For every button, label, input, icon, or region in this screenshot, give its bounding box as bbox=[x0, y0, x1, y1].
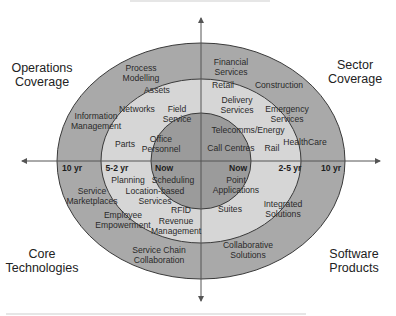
tick-right-2-5yr: 2-5 yr bbox=[279, 163, 302, 173]
tick-left-now: Now bbox=[155, 163, 173, 173]
item-telecomms-energy: Telecomms/Energy bbox=[211, 125, 284, 135]
quadrant-title-sector-coverage: SectorCoverage bbox=[328, 58, 382, 86]
item-assets: Assets bbox=[144, 85, 170, 95]
item-rail: Rail bbox=[265, 143, 280, 153]
quadrant-title-core-technologies: CoreTechnologies bbox=[6, 247, 79, 275]
item-healthcare: HealthCare bbox=[283, 137, 326, 147]
item-information-management: InformationManagement bbox=[71, 111, 121, 131]
item-collaborative-solutions: CollaborativeSolutions bbox=[223, 240, 273, 260]
tick-left-10yr: 10 yr bbox=[62, 163, 82, 173]
item-field-service: FieldService bbox=[163, 104, 192, 124]
item-emergency-services: EmergencyServices bbox=[265, 104, 308, 124]
item-process-modelling: ProcessModelling bbox=[123, 63, 160, 83]
item-point-applications: PointApplications bbox=[213, 175, 259, 195]
item-parts: Parts bbox=[115, 139, 135, 149]
tick-right-now: Now bbox=[229, 163, 247, 173]
item-location-based-services: Location-basedServices bbox=[126, 186, 185, 206]
item-rfid: RFID bbox=[171, 205, 191, 215]
item-service-marketplaces: ServiceMarketplaces bbox=[66, 186, 117, 206]
item-delivery-services: DeliveryServices bbox=[221, 95, 254, 115]
quadrant-title-operations-coverage: OperationsCoverage bbox=[11, 61, 72, 89]
item-integrated-solutions: IntegratedSolutions bbox=[264, 199, 303, 219]
item-call-centres: Call Centres bbox=[207, 143, 254, 153]
item-service-chain-collaboration: Service ChainCollaboration bbox=[132, 245, 186, 265]
tick-right-10yr: 10 yr bbox=[321, 163, 341, 173]
item-networks: Networks bbox=[119, 104, 155, 114]
item-construction: Construction bbox=[255, 80, 303, 90]
item-revenue-management: RevenueManagement bbox=[151, 216, 201, 236]
bottom-cutoff-text bbox=[6, 313, 306, 315]
item-employee-empowerment: EmployeeEmpowerment bbox=[95, 210, 150, 230]
tick-left-5-2yr: 5-2 yr bbox=[106, 163, 129, 173]
top-cutoff-text bbox=[130, 0, 270, 2]
item-retail: Retail bbox=[212, 80, 234, 90]
item-scheduling: Scheduling bbox=[152, 175, 195, 185]
item-planning: Planning bbox=[111, 175, 144, 185]
quadrant-title-software-products: SoftwareProducts bbox=[329, 247, 378, 275]
technology-roadmap-diagram: OperationsCoverage SectorCoverage CoreTe… bbox=[0, 0, 396, 316]
item-financial-services: FinancialServices bbox=[214, 57, 248, 77]
item-suites: Suites bbox=[218, 204, 242, 214]
item-office-personnel: OfficePersonnel bbox=[142, 134, 181, 154]
